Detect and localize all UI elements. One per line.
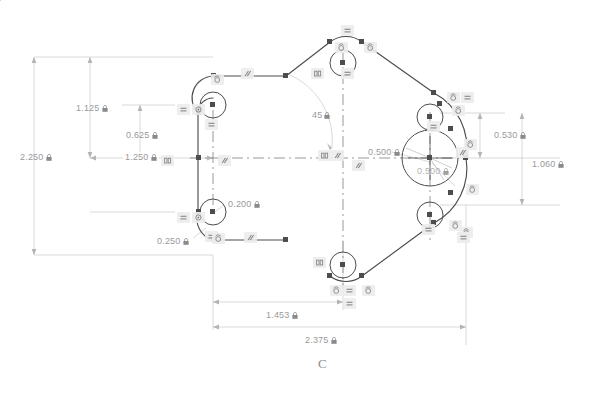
- dimension-2250-value: 2.250: [20, 152, 44, 162]
- constraint-tangent-icon[interactable]: [330, 285, 343, 296]
- constraint-tangent-icon[interactable]: [364, 42, 377, 53]
- dimension-lines: [34, 57, 560, 345]
- constraint-tangent-icon[interactable]: [447, 92, 460, 103]
- constraint-tangent-icon[interactable]: [466, 184, 479, 195]
- point-right-mid-upper: [448, 126, 453, 131]
- lock-icon: [443, 167, 449, 174]
- dimension-0500-lower[interactable]: 0.500: [417, 166, 449, 176]
- constraint-tangent-icon[interactable]: [452, 105, 465, 116]
- point-right-upper-2: [437, 101, 442, 106]
- constraint-equal-icon[interactable]: [461, 92, 474, 103]
- sketch-drawing[interactable]: [0, 0, 594, 395]
- dimension-1250[interactable]: 1.250: [123, 152, 159, 162]
- dimension-0500-lower-value: 0.500: [417, 166, 441, 176]
- point-right-upper-start: [431, 90, 436, 95]
- lock-icon: [331, 336, 337, 343]
- constraint-equal-icon[interactable]: [422, 224, 435, 235]
- constraint-tangent-icon[interactable]: [335, 42, 348, 53]
- dimension-angle-45[interactable]: 45: [312, 110, 330, 120]
- constraint-parallel-icon[interactable]: [241, 68, 254, 79]
- constraint-equal-icon[interactable]: [205, 119, 218, 130]
- point-big-center: [427, 155, 432, 160]
- constraint-perp-icon[interactable]: [318, 150, 331, 161]
- constraint-tangent-icon[interactable]: [362, 285, 375, 296]
- lock-icon: [151, 153, 157, 160]
- dimension-0530-value: 0.530: [494, 130, 518, 140]
- dimension-1125[interactable]: 1.125: [76, 103, 108, 113]
- lock-icon: [394, 148, 400, 155]
- dimension-0250-value: 0.250: [157, 236, 181, 246]
- constraint-tangent-icon[interactable]: [211, 74, 224, 85]
- dimension-angle-45-value: 45: [312, 110, 322, 120]
- construction-circles[interactable]: [200, 50, 458, 278]
- point-botline-right: [283, 237, 288, 242]
- constraint-equal-icon[interactable]: [457, 232, 470, 243]
- dimension-1060-value: 1.060: [532, 159, 556, 169]
- lock-icon: [152, 131, 158, 138]
- dimension-2375-value: 2.375: [305, 335, 329, 345]
- point-bot-apex-left: [327, 273, 332, 278]
- dimension-2250[interactable]: 2.250: [20, 152, 52, 162]
- dimension-0530[interactable]: 0.530: [494, 130, 526, 140]
- lock-icon: [46, 153, 52, 160]
- dimension-0500-left-value: 0.500: [368, 147, 392, 157]
- dimension-2375[interactable]: 2.375: [303, 335, 339, 345]
- lock-icon: [183, 237, 189, 244]
- constraint-parallel-icon[interactable]: [244, 232, 257, 243]
- leader-0200: [215, 205, 224, 212]
- point-topline-right: [283, 73, 288, 78]
- dimension-1250-value: 1.250: [125, 152, 149, 162]
- point-left-mid: [196, 155, 201, 160]
- point-ru-center: [427, 114, 432, 119]
- point-bot-apex-right: [359, 273, 364, 278]
- constraint-coincident-icon[interactable]: [192, 212, 205, 223]
- constraint-equal-icon[interactable]: [343, 285, 356, 296]
- centerlines: [190, 52, 455, 290]
- constraint-equal-icon[interactable]: [177, 104, 190, 115]
- lock-icon: [520, 131, 526, 138]
- profile-bottom-apex-arc: [330, 276, 362, 282]
- dimension-0200[interactable]: 0.200: [228, 199, 260, 209]
- constraint-equal-icon[interactable]: [427, 121, 440, 132]
- constraint-parallel-icon[interactable]: [331, 150, 344, 161]
- lock-icon: [292, 311, 298, 318]
- view-label-c: C: [318, 356, 327, 372]
- constraint-equal-icon[interactable]: [343, 298, 356, 309]
- dimension-0500-left[interactable]: 0.500: [368, 147, 400, 157]
- constraint-perp-icon[interactable]: [161, 155, 174, 166]
- point-bot-center: [340, 262, 345, 267]
- point-rl-center: [427, 212, 432, 217]
- constraint-parallel-icon[interactable]: [218, 155, 231, 166]
- point-right-mid-lower: [448, 190, 453, 195]
- lock-icon: [102, 104, 108, 111]
- dimension-0625[interactable]: 0.625: [126, 130, 158, 140]
- dimension-0625-value: 0.625: [126, 130, 150, 140]
- cad-sketch-canvas[interactable]: 2.250 1.125 0.625 1.250 0.200 0.250 45 0…: [0, 0, 594, 395]
- dimension-1453[interactable]: 1.453: [264, 310, 300, 320]
- constraint-parallel-icon[interactable]: [456, 147, 469, 158]
- constraint-coincident-icon[interactable]: [192, 104, 205, 115]
- dimension-1453-value: 1.453: [266, 310, 290, 320]
- constraint-equal-icon[interactable]: [341, 68, 354, 79]
- point-ul-center: [210, 102, 215, 107]
- constraint-tangent-icon[interactable]: [212, 233, 225, 244]
- point-apex-left: [327, 39, 332, 44]
- constraint-perp-icon[interactable]: [313, 257, 326, 268]
- lock-icon: [558, 160, 564, 167]
- lock-icon: [324, 111, 330, 118]
- point-top-center: [340, 60, 345, 65]
- dimension-0250[interactable]: 0.250: [157, 236, 189, 246]
- dimension-1060[interactable]: 1.060: [532, 159, 564, 169]
- dimension-1125-value: 1.125: [76, 103, 100, 113]
- constraint-equal-icon[interactable]: [341, 25, 354, 36]
- constraint-perp-icon[interactable]: [311, 68, 324, 79]
- point-ll-center: [210, 209, 215, 214]
- constraint-equal-icon[interactable]: [177, 212, 190, 223]
- lock-icon: [254, 200, 260, 207]
- sketch-profile[interactable]: [0, 0, 467, 282]
- constraint-parallel-icon[interactable]: [352, 160, 365, 171]
- dimension-0200-value: 0.200: [228, 199, 252, 209]
